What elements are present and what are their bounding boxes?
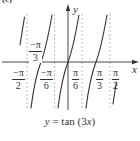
branch-3 [86,15,107,108]
tick-label-pi-6: π6 [72,68,79,91]
y-axis-arrow-icon [66,4,70,11]
tick-label-neg-pi-6: −π6 [40,68,53,91]
branch-2 [58,15,79,108]
branch-left-fragment [20,17,25,45]
tick-label-neg-pi-2: −π2 [12,68,25,91]
x-axis-label: x [132,63,137,75]
tick-label-neg-pi-3: −π3 [29,40,42,63]
tick-label-pi-3: π3 [96,68,103,91]
tick-label-pi-2: π2 [112,68,119,91]
figure-caption: y = tan (3x) [0,115,140,127]
x-axis [2,60,139,64]
y-axis-label: y [73,3,78,15]
